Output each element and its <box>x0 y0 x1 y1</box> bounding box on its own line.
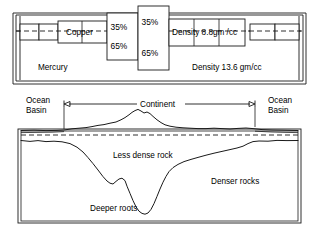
ocean-surface-right <box>255 131 298 132</box>
isostasy-figure: 35% 65% 35% 65% Copper Density 8.8gm /cc… <box>0 0 319 237</box>
ocean-basin-right-line2: Basin <box>268 106 289 115</box>
ocean-basin-left-line2: Basin <box>26 106 47 115</box>
percent-below-left: 65% <box>111 41 128 51</box>
float-block-2 <box>39 24 58 40</box>
continent-label: Continent <box>140 100 176 109</box>
float-block-3 <box>250 24 275 40</box>
denser-rocks-label: Denser rocks <box>211 177 259 186</box>
ocean-basin-left-line1: Ocean <box>26 96 51 105</box>
topography-profile <box>21 109 298 130</box>
ocean-basin-right-line1: Ocean <box>268 96 293 105</box>
crust-cross-section-group: Less dense rock Denser rocks Deeper root… <box>18 109 301 223</box>
density-block-label: Density 8.8gm /cc <box>172 28 237 37</box>
float-block-4 <box>275 24 299 40</box>
mercury-tank-group: 35% 65% 35% 65% Copper Density 8.8gm /cc… <box>13 6 306 84</box>
percent-above-right: 35% <box>142 17 159 27</box>
mercury-density-label: Density 13.6 gm/cc <box>192 63 262 72</box>
percent-block-left <box>107 13 138 60</box>
section-box-inner <box>21 131 298 221</box>
deeper-roots-label: Deeper roots <box>90 204 137 213</box>
less-dense-rock-label: Less dense rock <box>113 151 174 160</box>
section-box-outer <box>18 129 301 223</box>
mercury-label: Mercury <box>38 63 68 72</box>
percent-below-right: 65% <box>142 48 159 58</box>
percent-above-left: 35% <box>111 22 128 32</box>
continent-span-group: Continent Ocean Basin Ocean Basin <box>26 96 293 129</box>
ocean-surface-left <box>21 132 64 133</box>
figure-root: 35% 65% 35% 65% Copper Density 8.8gm /cc… <box>0 0 319 237</box>
float-block-1 <box>20 24 39 40</box>
copper-label: Copper <box>66 28 93 37</box>
